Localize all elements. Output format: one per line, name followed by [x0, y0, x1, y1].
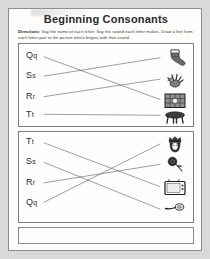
spoon-picture[interactable] [162, 197, 188, 216]
letter-upper: R [26, 91, 33, 101]
letter-pair-ss[interactable]: Ss [26, 156, 36, 166]
letter-lower: q [33, 52, 37, 59]
letter-upper: R [26, 177, 33, 187]
worksheet-page: Beginning Consonants Directions: Say the… [8, 8, 202, 251]
letter-lower: t [32, 138, 34, 145]
letter-lower: t [32, 111, 34, 118]
table-picture[interactable] [162, 108, 188, 127]
rooster-picture[interactable] [162, 69, 188, 88]
directions-text: Say the name of each letter. Say the sou… [18, 29, 193, 40]
letter-lower: s [32, 72, 36, 79]
letter-lower: q [33, 199, 37, 206]
letter-pair-qq[interactable]: Qq [26, 197, 38, 207]
letter-pair-tt[interactable]: Tt [26, 109, 34, 119]
letter-lower: r [33, 179, 36, 186]
sock-picture[interactable] [162, 48, 188, 67]
letter-pair-qq[interactable]: Qq [26, 50, 38, 60]
directions: Directions: Say the name of each letter.… [18, 29, 194, 41]
letter-lower: s [32, 158, 36, 165]
television-picture[interactable] [162, 178, 188, 197]
directions-label: Directions: [18, 29, 40, 34]
letter-pair-tt[interactable]: Tt [26, 136, 34, 146]
scan-artifact [31, 9, 101, 16]
letter-pair-rr[interactable]: Rr [26, 177, 35, 187]
letter-pair-ss[interactable]: Ss [26, 70, 36, 80]
answer-strip[interactable] [18, 227, 194, 244]
rose-picture[interactable] [162, 156, 188, 175]
queen-picture[interactable] [162, 135, 188, 154]
exercise-box-1: Qq Ss Rr Tt [18, 43, 194, 127]
letter-lower: r [33, 93, 36, 100]
letter-pair-rr[interactable]: Rr [26, 91, 35, 101]
exercise-box-2: Tt Ss Rr Qq [18, 131, 194, 223]
